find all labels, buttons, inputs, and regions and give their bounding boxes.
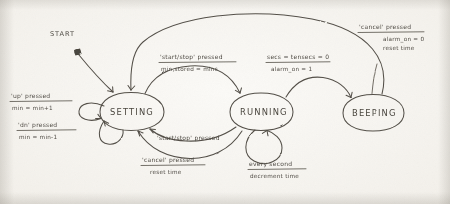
label-beep-cancel-condition: 'cancel' pressed: [359, 23, 411, 31]
label-timeout-condition: secs = tensecs = 0: [267, 53, 329, 60]
state-label-running: RUNNING: [240, 107, 288, 117]
label-transition-running-setting-startstop: 'start/stop' pressed: [157, 134, 220, 142]
label-timeout-action: alarm_on = 1: [271, 66, 312, 73]
label-tick-action: decrement time: [250, 173, 299, 179]
label-cancel-condition: 'cancel' pressed: [142, 156, 194, 164]
label-startstop-condition: 'start/stop' pressed: [160, 53, 223, 61]
state-label-setting: SETTING: [110, 107, 154, 117]
label-up-condition: 'up' pressed: [11, 92, 50, 100]
label-dn-condition: 'dn' pressed: [18, 121, 57, 129]
state-diagram: SETTING RUNNING BEEPING: [0, 0, 450, 204]
label-up-action: min = min+1: [12, 105, 53, 111]
diagram-canvas: SETTING RUNNING BEEPING: [0, 0, 450, 204]
label-startstop-back-condition: 'start/stop' pressed: [157, 134, 220, 142]
label-dn-action: min = min-1: [19, 134, 57, 140]
label-startstop-action: min,stored = mins: [161, 66, 218, 72]
label-beep-cancel-action-2: reset time: [383, 45, 415, 51]
start-label: START: [50, 30, 75, 38]
label-cancel-action: reset time: [150, 169, 182, 175]
state-label-beeping: BEEPING: [352, 108, 397, 118]
label-tick-condition: every second: [249, 160, 292, 168]
label-beep-cancel-action: alarm_on = 0: [383, 36, 424, 43]
